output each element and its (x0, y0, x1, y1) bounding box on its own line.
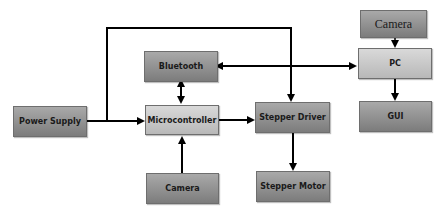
node-label: PC (389, 59, 401, 68)
node-label: Power Supply (19, 117, 81, 126)
node-stepper-driver: Stepper Driver (255, 102, 330, 133)
node-camera-pc: Camera (360, 10, 427, 38)
node-pc: PC (358, 48, 432, 79)
node-camera-mcu: Camera (146, 173, 219, 204)
node-label: Microcontroller (148, 116, 217, 125)
node-label: Camera (165, 184, 199, 193)
node-power-supply: Power Supply (13, 106, 87, 137)
node-bluetooth: Bluetooth (144, 51, 218, 82)
node-label: Stepper Driver (259, 113, 326, 122)
node-label: Bluetooth (159, 62, 203, 71)
node-microcontroller: Microcontroller (145, 105, 219, 135)
node-label: Camera (375, 17, 412, 32)
node-label: GUI (387, 112, 403, 121)
node-label: Stepper Motor (260, 182, 325, 191)
node-stepper-motor: Stepper Motor (256, 171, 330, 202)
node-gui: GUI (359, 101, 432, 132)
